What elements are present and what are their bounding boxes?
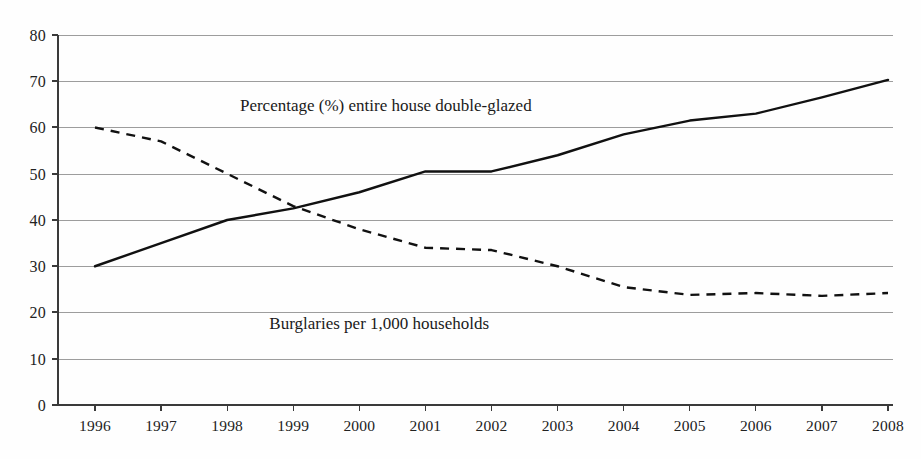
y-tick-label-0: 0 (38, 397, 46, 414)
y-tick-label-10: 10 (30, 351, 46, 368)
series-line-burglaries (95, 128, 888, 296)
y-tick-label-40: 40 (30, 212, 46, 229)
y-tick-labels: 80 70 60 50 40 30 20 10 0 (30, 27, 46, 414)
x-tick-label-2007: 2007 (806, 417, 838, 434)
y-tick-label-50: 50 (30, 166, 46, 183)
x-tick-label-1999: 1999 (277, 417, 309, 434)
x-tick-label-2003: 2003 (542, 417, 574, 434)
series-annotations: Percentage (%) entire house double-glaze… (240, 96, 532, 332)
gridlines (58, 35, 893, 359)
x-tick-label-2004: 2004 (608, 417, 640, 434)
x-tick-label-2000: 2000 (343, 417, 375, 434)
y-tick-marks (52, 35, 58, 405)
series-annotation-1: Percentage (%) entire house double-glaze… (240, 96, 532, 115)
x-tick-label-1996: 1996 (79, 417, 111, 434)
x-tick-marks (95, 405, 888, 411)
x-tick-label-1998: 1998 (211, 417, 243, 434)
y-tick-label-70: 70 (30, 73, 46, 90)
y-tick-label-80: 80 (30, 27, 46, 44)
chart-container: 80 70 60 50 40 30 20 10 0 19961997199819… (0, 0, 921, 459)
x-tick-label-1997: 1997 (145, 417, 177, 434)
y-tick-label-30: 30 (30, 258, 46, 275)
x-tick-labels: 1996199719981999200020012002200320042005… (79, 417, 904, 434)
x-tick-label-2005: 2005 (674, 417, 706, 434)
series-annotation-2: Burglaries per 1,000 households (269, 314, 489, 333)
x-tick-label-2002: 2002 (476, 417, 508, 434)
x-tick-label-2006: 2006 (740, 417, 772, 434)
x-tick-label-2008: 2008 (872, 417, 904, 434)
y-tick-label-60: 60 (30, 119, 46, 136)
line-chart: 80 70 60 50 40 30 20 10 0 19961997199819… (0, 0, 921, 459)
x-tick-label-2001: 2001 (410, 417, 442, 434)
y-tick-label-20: 20 (30, 304, 46, 321)
